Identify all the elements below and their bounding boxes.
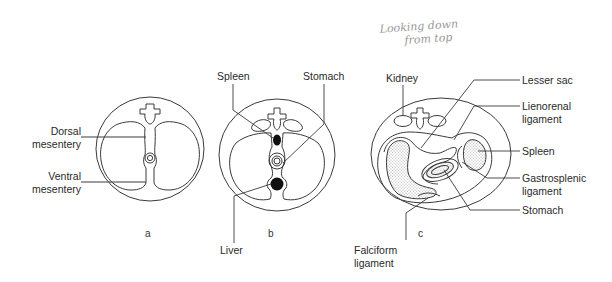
label-dorsal-mesentery: Dorsal mesentery bbox=[31, 125, 81, 150]
label-lienorenal-ligament: Lienorenal ligament bbox=[522, 100, 571, 125]
panel-c-leaders bbox=[403, 80, 520, 240]
diagram-svg bbox=[0, 0, 612, 282]
panel-c-diagram bbox=[371, 98, 511, 210]
label-text: ligament bbox=[522, 185, 586, 198]
label-text: Dorsal bbox=[31, 125, 81, 138]
label-liver-b: Liver bbox=[220, 244, 243, 257]
label-text: mesentery bbox=[31, 183, 81, 196]
panel-letter-c: c bbox=[418, 228, 423, 239]
label-text: Lienorenal bbox=[522, 100, 571, 113]
label-spleen-c: Spleen bbox=[522, 145, 555, 158]
label-text: ligament bbox=[522, 113, 571, 126]
embryology-diagram: Looking down from top Dorsal mesentery V… bbox=[0, 0, 612, 282]
label-text: Ventral bbox=[31, 170, 81, 183]
handwritten-note: Looking down from top bbox=[379, 17, 459, 48]
label-spleen-b: Spleen bbox=[217, 70, 250, 83]
label-text: Falciform bbox=[354, 244, 397, 257]
label-text: ligament bbox=[354, 257, 397, 270]
label-text: mesentery bbox=[31, 138, 81, 151]
label-stomach-b: Stomach bbox=[303, 70, 344, 83]
panel-letter-a: a bbox=[145, 228, 151, 239]
panel-b-diagram bbox=[219, 99, 335, 211]
label-lesser-sac: Lesser sac bbox=[522, 74, 573, 87]
panel-a-diagram bbox=[81, 97, 204, 201]
label-stomach-c: Stomach bbox=[522, 204, 563, 217]
label-text: Gastrosplenic bbox=[522, 172, 586, 185]
panel-letter-b: b bbox=[268, 228, 274, 239]
label-kidney: Kidney bbox=[386, 72, 418, 85]
label-gastrosplenic-ligament: Gastrosplenic ligament bbox=[522, 172, 586, 197]
label-falciform-ligament: Falciform ligament bbox=[354, 244, 397, 269]
label-ventral-mesentery: Ventral mesentery bbox=[31, 170, 81, 195]
